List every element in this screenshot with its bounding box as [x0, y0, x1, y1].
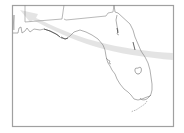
florida-map	[0, 0, 184, 133]
map-frame	[13, 6, 174, 127]
